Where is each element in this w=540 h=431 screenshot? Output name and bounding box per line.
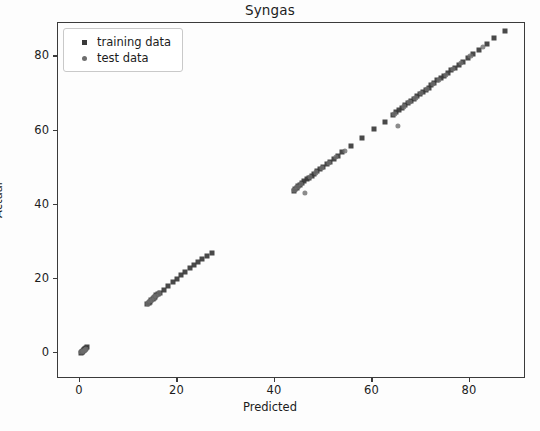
y-tick-label: 60 [34,123,49,137]
chart-legend: training data test data [63,28,183,72]
data-point-test [458,60,463,65]
data-point-training [209,250,214,255]
data-point-test [450,66,455,71]
y-tick-label: 80 [34,48,49,62]
x-tick-mark [469,378,470,382]
data-point-test [407,99,412,104]
data-point-test [307,174,312,179]
data-point-test [299,181,304,186]
data-point-training [359,136,364,141]
data-point-test [396,123,401,128]
y-tick-mark [53,204,57,205]
x-tick-label: 40 [267,383,282,397]
data-point-test [326,161,331,166]
data-point-test [392,111,397,116]
y-tick-label: 20 [34,271,49,285]
y-tick-mark [53,55,57,56]
data-point-test [303,190,308,195]
data-point-test [413,95,418,100]
chart-figure: Syngas 020406080 020406080 Predicted Act… [0,0,540,431]
x-tick-label: 80 [462,383,477,397]
x-tick-label: 60 [364,383,379,397]
data-point-test [342,148,347,153]
data-point-training [348,144,353,149]
data-point-test [468,53,473,58]
data-point-test [319,165,324,170]
data-point-test [333,155,338,160]
circle-marker-icon [71,56,97,61]
data-point-training [382,119,387,124]
data-point-test [419,90,424,95]
data-point-training [503,28,508,33]
x-tick-mark [274,378,275,382]
data-point-training [492,36,497,41]
y-tick-label: 40 [34,197,49,211]
legend-item-training: training data [71,34,171,50]
legend-item-test: test data [71,50,171,66]
x-tick-mark [79,378,80,382]
data-point-test [436,77,441,82]
y-tick-mark [53,278,57,279]
data-point-test [443,72,448,77]
plot-area [57,22,525,378]
data-point-test [430,82,435,87]
data-point-test [480,45,485,50]
y-tick-mark [53,130,57,131]
data-point-test [313,170,318,175]
data-point-test [401,104,406,109]
y-axis-label: Actual [0,182,5,218]
x-tick-label: 0 [75,383,82,397]
page-title: Syngas [0,2,540,18]
x-tick-label: 20 [169,383,184,397]
data-point-test [156,291,161,296]
x-tick-mark [176,378,177,382]
legend-label-test: test data [97,51,149,65]
data-point-test [424,86,429,91]
x-axis-label: Predicted [0,400,540,414]
legend-label-training: training data [97,35,171,49]
data-points-layer [58,23,524,377]
y-tick-label: 0 [42,345,49,359]
data-point-training [372,127,377,132]
square-marker-icon [71,40,97,45]
x-tick-mark [371,378,372,382]
y-tick-mark [53,352,57,353]
